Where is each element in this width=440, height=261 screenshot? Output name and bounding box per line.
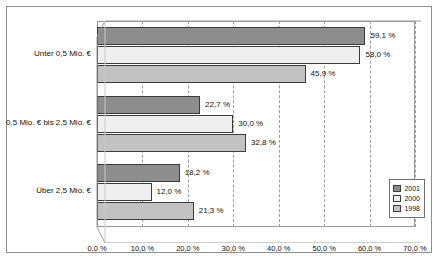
- bar-2001-3: [97, 164, 180, 182]
- legend[interactable]: 200120001998: [389, 179, 425, 218]
- legend-label: 2001: [404, 185, 420, 193]
- category-label-3: Über 2,5 Mio. €: [36, 186, 91, 195]
- value-label-1998-1: 45,9 %: [311, 69, 336, 79]
- legend-swatch-icon: [393, 195, 401, 202]
- bar-2000-3: [97, 183, 152, 201]
- legend-item-2000[interactable]: 2000: [393, 194, 420, 203]
- value-label-1998-2: 32,8 %: [251, 138, 276, 148]
- legend-swatch-icon: [393, 185, 401, 192]
- value-label-2001-1: 59,1 %: [370, 31, 395, 41]
- bar-1998-1: [97, 65, 306, 83]
- value-label-1998-3: 21,3 %: [199, 206, 224, 216]
- x-tick-label: 40,0 %: [267, 244, 290, 253]
- legend-label: 2000: [404, 195, 420, 203]
- x-tick-label: 10,0 %: [131, 244, 154, 253]
- x-tick-label: 30,0 %: [222, 244, 245, 253]
- value-label-2001-3: 18,2 %: [185, 168, 210, 178]
- chart-frame: Unter 0,5 Mio. €0,5 Mio. € bis 2,5 Mio. …: [6, 6, 432, 253]
- bar-2001-1: [97, 27, 365, 45]
- bar-1998-3: [97, 202, 194, 220]
- bar-2001-2: [97, 96, 200, 114]
- x-tick-label: 50,0 %: [312, 244, 335, 253]
- legend-item-1998[interactable]: 1998: [393, 204, 420, 213]
- value-label-2000-1: 58,0 %: [365, 50, 390, 60]
- category-label-1: Unter 0,5 Mio. €: [34, 49, 91, 58]
- bar-2000-2: [97, 115, 233, 133]
- legend-item-2001[interactable]: 2001: [393, 184, 420, 193]
- category-label-2: 0,5 Mio. € bis 2,5 Mio. €: [6, 118, 91, 127]
- x-tick-label: 20,0 %: [176, 244, 199, 253]
- x-tick-label: 70,0 %: [403, 244, 426, 253]
- x-tick-label: 0,0 %: [87, 244, 106, 253]
- legend-label: 1998: [404, 205, 420, 213]
- value-label-2001-2: 22,7 %: [205, 100, 230, 110]
- value-label-2000-2: 30,0 %: [238, 119, 263, 129]
- legend-swatch-icon: [393, 205, 401, 212]
- bar-2000-1: [97, 46, 360, 64]
- x-tick-label: 60,0 %: [358, 244, 381, 253]
- value-label-2000-3: 12,0 %: [157, 187, 182, 197]
- bar-1998-2: [97, 134, 246, 152]
